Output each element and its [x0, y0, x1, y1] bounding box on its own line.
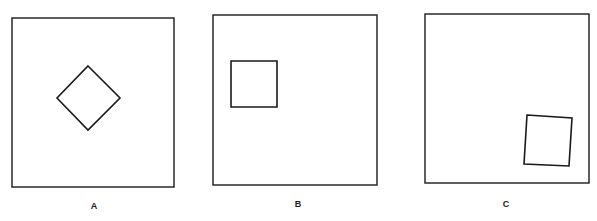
panel-c-label: C: [503, 200, 510, 209]
panel-c: [425, 14, 589, 183]
panel-c-tilted-square: [524, 115, 572, 166]
panel-b-label: B: [295, 200, 302, 209]
panel-a-label: A: [91, 202, 98, 211]
panel-b-square: [231, 61, 277, 107]
panel-b: [213, 15, 377, 185]
panel-a-diamond: [57, 66, 120, 130]
panel-a: [12, 18, 174, 187]
panel-a-frame: [12, 18, 174, 187]
figure-canvas: [0, 0, 597, 221]
panel-b-frame: [213, 15, 377, 185]
panel-c-frame: [425, 14, 589, 183]
